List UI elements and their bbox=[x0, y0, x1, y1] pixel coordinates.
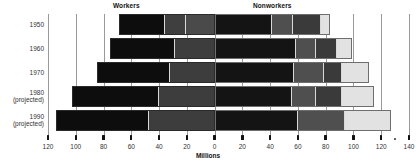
y-axis-labels: 1950196019701980(projected)1990(projecte… bbox=[0, 14, 44, 138]
x-axis-tick bbox=[102, 135, 104, 140]
bar-workers bbox=[97, 62, 215, 83]
x-axis-tick-label: 80 bbox=[100, 143, 107, 150]
x-axis-tick bbox=[269, 135, 271, 140]
bar-segment bbox=[216, 15, 272, 34]
bar-nonworkers bbox=[215, 38, 352, 59]
gridline bbox=[409, 14, 410, 138]
x-axis-tick-label: 80 bbox=[322, 143, 329, 150]
bar-row bbox=[48, 110, 409, 131]
bar-segment bbox=[149, 111, 213, 130]
group-header-nonworkers: Nonworkers bbox=[253, 2, 292, 9]
y-axis-label-note: (projected) bbox=[13, 96, 44, 103]
group-header-workers: Workers bbox=[113, 2, 140, 9]
x-axis: 12010080604020020406080100120140 bbox=[48, 138, 409, 140]
y-axis-label-year: 1950 bbox=[30, 21, 44, 28]
y-axis-label: 1960 bbox=[30, 45, 44, 52]
bar-segment bbox=[175, 39, 213, 58]
bar-segment bbox=[216, 87, 293, 106]
y-axis-label-year: 1990 bbox=[13, 113, 44, 120]
bar-segment bbox=[294, 63, 324, 82]
x-axis-tick-label: 0 bbox=[213, 143, 217, 150]
x-axis-tick-label: 40 bbox=[267, 143, 274, 150]
x-axis-minor-tick bbox=[394, 138, 396, 140]
bar-segment bbox=[159, 87, 214, 106]
y-axis-label: 1950 bbox=[30, 21, 44, 28]
x-axis-tick bbox=[297, 135, 299, 140]
bar-segment bbox=[186, 15, 213, 34]
x-axis-tick bbox=[213, 135, 215, 140]
y-axis-label: 1990(projected) bbox=[13, 113, 44, 128]
x-axis-tick-label: 100 bbox=[70, 143, 81, 150]
population-workers-nonworkers-chart: Workers Nonworkers 1950196019701980(proj… bbox=[0, 0, 416, 163]
x-axis-tick-label: 60 bbox=[294, 143, 301, 150]
bar-workers bbox=[110, 38, 214, 59]
bar-segment bbox=[216, 63, 294, 82]
bar-row bbox=[48, 62, 409, 83]
x-axis-tick bbox=[352, 135, 354, 140]
bar-segment bbox=[321, 15, 329, 34]
bar-workers bbox=[56, 110, 214, 131]
y-axis-label: 1970 bbox=[30, 69, 44, 76]
plot-area bbox=[48, 14, 409, 138]
y-axis-label-year: 1970 bbox=[30, 69, 44, 76]
bar-workers bbox=[119, 14, 215, 35]
bar-segment bbox=[57, 111, 149, 130]
bar-row bbox=[48, 14, 409, 35]
bar-segment bbox=[292, 87, 315, 106]
bar-segment bbox=[316, 39, 338, 58]
x-axis-tick bbox=[186, 135, 188, 140]
y-axis-label-note: (projected) bbox=[13, 120, 44, 127]
bar-segment bbox=[293, 15, 320, 34]
bar-nonworkers bbox=[215, 110, 391, 131]
x-axis-tick-label: 120 bbox=[376, 143, 387, 150]
bar-nonworkers bbox=[215, 86, 375, 107]
y-axis-label-year: 1980 bbox=[13, 89, 44, 96]
bar-row bbox=[48, 86, 409, 107]
bar-segment bbox=[216, 111, 298, 130]
x-axis-tick bbox=[47, 135, 49, 140]
x-axis-tick-label: 120 bbox=[43, 143, 54, 150]
bar-segment bbox=[73, 87, 159, 106]
bar-workers bbox=[72, 86, 215, 107]
bar-segment bbox=[170, 63, 214, 82]
x-axis-tick-label: 60 bbox=[128, 143, 135, 150]
bar-segment bbox=[337, 39, 351, 58]
bar-segment bbox=[324, 63, 342, 82]
bar-nonworkers bbox=[215, 14, 330, 35]
bar-segment bbox=[316, 87, 342, 106]
y-axis-label-year: 1960 bbox=[30, 45, 44, 52]
x-axis-tick-label: 20 bbox=[239, 143, 246, 150]
bar-segment bbox=[120, 15, 165, 34]
x-axis-title: Millions bbox=[0, 152, 416, 159]
bar-segment bbox=[111, 39, 175, 58]
y-axis-label: 1980(projected) bbox=[13, 89, 44, 104]
bar-segment bbox=[216, 39, 297, 58]
bar-segment bbox=[296, 39, 315, 58]
x-axis-tick-label: 40 bbox=[155, 143, 162, 150]
x-axis-tick bbox=[158, 135, 160, 140]
x-axis-tick bbox=[241, 135, 243, 140]
x-axis-tick bbox=[75, 135, 77, 140]
bar-segment bbox=[345, 111, 390, 130]
x-axis-tick-label: 140 bbox=[404, 143, 415, 150]
bar-row bbox=[48, 38, 409, 59]
x-axis-tick bbox=[324, 135, 326, 140]
bar-nonworkers bbox=[215, 62, 369, 83]
bar-segment bbox=[98, 63, 170, 82]
bar-segment bbox=[342, 87, 374, 106]
bar-segment bbox=[298, 111, 345, 130]
x-axis-tick bbox=[408, 135, 410, 140]
bar-segment bbox=[342, 63, 368, 82]
bar-segment bbox=[165, 15, 187, 34]
bar-segment bbox=[272, 15, 294, 34]
x-axis-tick-label: 100 bbox=[348, 143, 359, 150]
x-axis-tick-label: 20 bbox=[183, 143, 190, 150]
